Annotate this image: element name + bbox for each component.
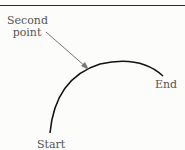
start-label: Start xyxy=(37,139,65,150)
end-label: End xyxy=(155,79,177,91)
diagram: Second point End Start xyxy=(0,0,185,150)
second-point-label: Second point xyxy=(7,15,47,39)
arrow-shaft xyxy=(46,32,86,67)
second-point-label-line2: point xyxy=(7,27,47,39)
arc-curve xyxy=(50,61,163,133)
